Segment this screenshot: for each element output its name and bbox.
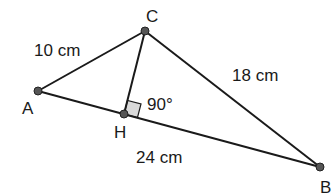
segment-ch-altitude [124,31,145,114]
label-h: H [114,123,126,142]
point-b [316,163,324,171]
point-h [120,110,128,118]
point-a [34,87,42,95]
triangle-diagram: A C H B 10 cm 18 cm 24 cm 90° [0,0,333,195]
label-c: C [146,7,158,26]
label-b: B [320,178,331,195]
length-label-ac: 10 cm [34,41,80,60]
point-c [141,27,149,35]
right-angle-label: 90° [147,95,173,114]
label-a: A [22,99,34,118]
length-label-cb: 18 cm [232,66,278,85]
segment-ac [38,31,145,91]
length-label-ab: 24 cm [136,148,182,167]
